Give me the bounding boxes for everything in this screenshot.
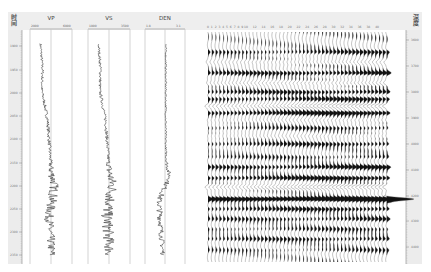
seismic-trace-fill	[231, 32, 236, 262]
trace-label: 14	[262, 25, 266, 29]
trace-label: 30	[331, 25, 335, 29]
seismic-trace	[382, 32, 413, 262]
seismic-trace-fill	[238, 32, 243, 262]
trace-label: 5	[226, 25, 228, 29]
seismic-trace-fill	[219, 32, 224, 262]
trace-label: 34	[349, 25, 353, 29]
seismic-trace	[258, 32, 266, 262]
trace-label: 26	[314, 25, 318, 29]
seismic-trace	[371, 32, 383, 262]
seismic-trace-fill	[246, 32, 251, 262]
trace-label: 16	[270, 25, 274, 29]
seismic-trace	[228, 32, 236, 262]
seismic-trace	[262, 32, 270, 262]
trace-label: 0	[207, 25, 209, 29]
trace-label: 20	[288, 25, 292, 29]
seismic-trace-fill	[223, 32, 228, 262]
trace-label: 8	[237, 25, 239, 29]
seismic-trace-fill	[208, 32, 213, 262]
trace-label: 22	[297, 25, 301, 29]
seismic-trace-fill	[212, 32, 217, 262]
seismic-trace	[367, 32, 379, 262]
trace-label: 38	[366, 25, 370, 29]
seismic-trace	[220, 32, 228, 262]
trace-label: 10	[244, 25, 248, 29]
trace-label: 36	[358, 25, 362, 29]
seismic-trace	[375, 32, 387, 262]
seismic-trace-fill	[235, 32, 240, 262]
seismic-trace	[379, 32, 391, 262]
seismic-trace-fill	[387, 32, 414, 262]
seismic-trace-fill	[242, 32, 247, 262]
trace-label: 7	[234, 25, 236, 29]
trace-label: 28	[323, 25, 327, 29]
log-curve-vs	[98, 44, 116, 255]
log-curve-vp	[39, 44, 58, 255]
seismic-trace	[224, 32, 232, 262]
trace-label: 40	[375, 25, 379, 29]
trace-label: 18	[279, 25, 283, 29]
trace-label: 6	[230, 25, 232, 29]
trace-label: 9	[241, 25, 243, 29]
seismic-trace-fill	[216, 32, 221, 262]
trace-label: 12	[253, 25, 257, 29]
log-curve-den	[157, 44, 171, 255]
plot-canvas: 0123456789101214161820222426283032343638…	[0, 0, 431, 272]
trace-label: 32	[340, 25, 344, 29]
seismic-trace	[363, 32, 376, 262]
trace-label: 4	[222, 25, 224, 29]
trace-label: 1	[211, 25, 213, 29]
well-seismic-tie-panel: 时间 深度 VP20006000VS10003500DEN1.83.1 1900…	[0, 0, 431, 272]
seismic-trace	[359, 32, 372, 262]
trace-label: 2	[215, 25, 217, 29]
trace-label: 24	[305, 25, 309, 29]
trace-label: 3	[218, 25, 220, 29]
seismic-trace-fill	[250, 32, 255, 262]
seismic-trace-fill	[227, 32, 232, 262]
